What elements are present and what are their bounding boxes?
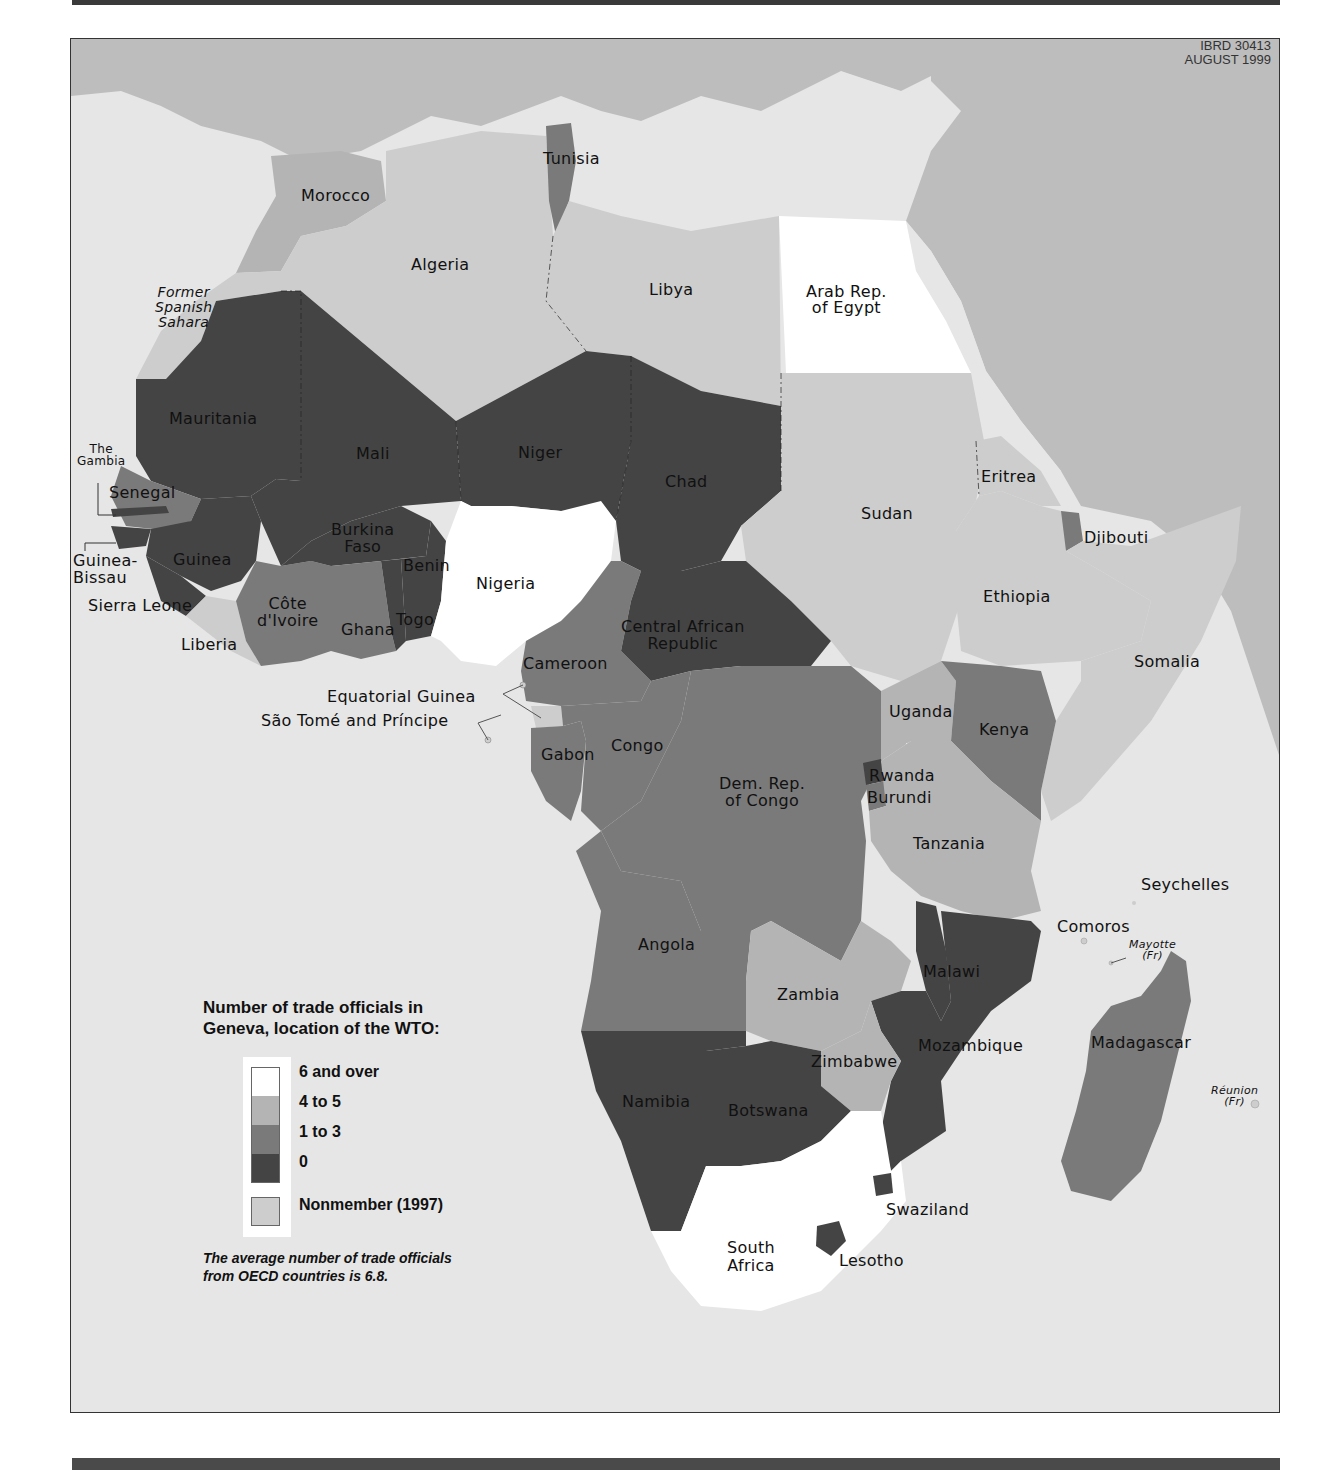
label-comoros: Comoros	[1057, 918, 1130, 935]
legend-swatch-0	[251, 1154, 280, 1183]
label-south-africa-line2: Africa	[727, 1257, 775, 1275]
label-mayotte-line2: (Fr)	[1129, 950, 1176, 961]
label-niger: Niger	[518, 444, 563, 461]
label-car-line1: Central African	[621, 618, 745, 635]
map-credit: IBRD 30413 AUGUST 1999	[1185, 39, 1271, 67]
label-sierra-leone: Sierra Leone	[88, 597, 192, 614]
legend-title-line1: Number of trade officials in	[203, 997, 440, 1018]
label-mayotte: Mayotte (Fr)	[1129, 939, 1176, 961]
label-car: Central African Republic	[621, 618, 745, 652]
label-djibouti: Djibouti	[1084, 529, 1148, 546]
legend-title: Number of trade officials in Geneva, loc…	[203, 997, 440, 1039]
label-zambia: Zambia	[777, 986, 840, 1003]
credit-id: IBRD 30413	[1185, 39, 1271, 53]
comoros-island	[1081, 938, 1087, 944]
label-burkina-line2: Faso	[331, 538, 394, 555]
legend-label-nonmember: Nonmember (1997)	[299, 1196, 443, 1214]
label-zimbabwe: Zimbabwe	[811, 1053, 897, 1070]
label-namibia: Namibia	[622, 1093, 690, 1110]
legend-label-4-to-5: 4 to 5	[299, 1093, 341, 1111]
label-togo: Togo	[396, 611, 434, 628]
label-guinea-bissau-line2: Bissau	[73, 569, 138, 586]
label-mali: Mali	[356, 445, 390, 462]
legend-note: The average number of trade officials fr…	[203, 1249, 452, 1285]
label-senegal: Senegal	[109, 484, 176, 501]
label-gambia: The Gambia	[77, 443, 125, 467]
label-seychelles: Seychelles	[1141, 876, 1229, 893]
label-guinea-bissau-line1: Guinea-	[73, 552, 138, 569]
label-reunion: Réunion (Fr)	[1211, 1085, 1258, 1107]
label-uganda: Uganda	[889, 703, 953, 720]
label-chad: Chad	[665, 473, 707, 490]
label-burkina-line1: Burkina	[331, 521, 394, 538]
label-nigeria: Nigeria	[476, 575, 535, 592]
bottom-rule	[72, 1458, 1280, 1470]
label-liberia: Liberia	[181, 636, 237, 653]
label-libya: Libya	[649, 281, 693, 298]
legend-swatch-1-to-3	[251, 1125, 280, 1154]
label-burkina-faso: Burkina Faso	[331, 521, 394, 555]
label-spanish-sahara-line2: Spanish	[155, 300, 212, 315]
label-ethiopia: Ethiopia	[983, 588, 1051, 605]
label-morocco: Morocco	[301, 187, 370, 204]
legend-note-line2: from OECD countries is 6.8.	[203, 1267, 452, 1285]
label-cote-divoire: Côte d'Ivoire	[257, 595, 318, 629]
credit-date: AUGUST 1999	[1185, 53, 1271, 67]
label-sao-tome: São Tomé and Príncipe	[261, 712, 448, 729]
legend-swatch-4-to-5	[251, 1096, 280, 1125]
label-botswana: Botswana	[728, 1102, 809, 1119]
legend-swatch-panel	[243, 1057, 291, 1237]
africa-map: IBRD 30413 AUGUST 1999 Morocco Algeria T…	[70, 38, 1280, 1413]
label-kenya: Kenya	[979, 721, 1029, 738]
label-algeria: Algeria	[411, 256, 469, 273]
label-madagascar: Madagascar	[1091, 1034, 1191, 1051]
label-mozambique: Mozambique	[918, 1037, 1023, 1054]
label-equatorial-guinea: Equatorial Guinea	[327, 688, 476, 705]
label-south-africa-line1: South	[727, 1239, 775, 1257]
label-benin: Benin	[403, 557, 450, 574]
label-egypt-line2: of Egypt	[806, 300, 887, 316]
label-angola: Angola	[638, 936, 695, 953]
label-drc-line2: of Congo	[719, 792, 805, 809]
label-spanish-sahara-line1: Former	[155, 285, 212, 300]
label-cote-divoire-line1: Côte	[257, 595, 318, 612]
label-mauritania: Mauritania	[169, 410, 257, 427]
label-rwanda: Rwanda	[869, 767, 935, 784]
label-reunion-line2: (Fr)	[1211, 1096, 1258, 1107]
legend-label-1-to-3: 1 to 3	[299, 1123, 341, 1141]
legend-note-line1: The average number of trade officials	[203, 1249, 452, 1267]
label-gambia-line2: Gambia	[77, 455, 125, 467]
label-lesotho: Lesotho	[839, 1252, 904, 1269]
swaziland-shape	[873, 1173, 893, 1196]
label-drc: Dem. Rep. of Congo	[719, 775, 805, 809]
label-cote-divoire-line2: d'Ivoire	[257, 612, 318, 629]
label-south-africa: South Africa	[727, 1239, 775, 1275]
label-spanish-sahara-line3: Sahara	[155, 315, 212, 330]
label-guinea: Guinea	[173, 551, 232, 568]
label-egypt: Arab Rep. of Egypt	[806, 284, 887, 316]
equatorial-guinea-shape	[531, 706, 563, 728]
label-drc-line1: Dem. Rep.	[719, 775, 805, 792]
label-spanish-sahara: Former Spanish Sahara	[155, 285, 212, 330]
label-tanzania: Tanzania	[913, 835, 985, 852]
label-cameroon: Cameroon	[523, 655, 608, 672]
label-sudan: Sudan	[861, 505, 913, 522]
legend-title-line2: Geneva, location of the WTO:	[203, 1018, 440, 1039]
label-swaziland: Swaziland	[886, 1201, 969, 1218]
legend-swatch-6-and-over	[251, 1067, 280, 1096]
label-burundi: Burundi	[867, 789, 932, 806]
legend-swatch-nonmember	[251, 1197, 280, 1226]
seychelles-island	[1132, 901, 1136, 905]
label-gabon: Gabon	[541, 746, 595, 763]
label-guinea-bissau: Guinea- Bissau	[73, 552, 138, 586]
top-rule	[72, 0, 1280, 5]
label-car-line2: Republic	[621, 635, 745, 652]
label-malawi: Malawi	[923, 963, 980, 980]
label-congo: Congo	[611, 737, 664, 754]
label-ghana: Ghana	[341, 621, 395, 638]
label-tunisia: Tunisia	[543, 150, 600, 167]
legend-label-6-and-over: 6 and over	[299, 1063, 379, 1081]
legend-label-0: 0	[299, 1153, 308, 1171]
label-eritrea: Eritrea	[981, 468, 1036, 485]
label-somalia: Somalia	[1134, 653, 1200, 670]
